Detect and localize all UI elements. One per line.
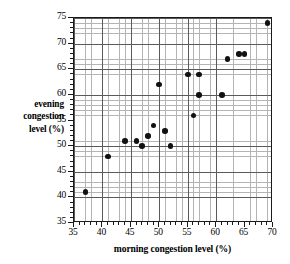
y-axis-tick xyxy=(68,43,73,44)
data-point xyxy=(191,113,197,119)
scatter-chart: eveningcongestionlevel (%) morning conge… xyxy=(0,0,290,264)
y-axis-minor-tick xyxy=(70,140,73,141)
y-axis-minor-tick xyxy=(70,32,73,33)
data-point xyxy=(156,82,162,88)
y-axis-minor-tick xyxy=(70,125,73,126)
x-axis-tick-label: 60 xyxy=(202,228,228,238)
y-axis-minor-tick xyxy=(70,104,73,105)
x-axis-minor-tick xyxy=(238,222,239,225)
x-axis-minor-tick xyxy=(249,222,250,225)
data-point xyxy=(122,138,128,144)
data-point xyxy=(196,72,202,78)
y-axis-tick-label: 65 xyxy=(42,63,66,73)
y-axis-tick-label: 70 xyxy=(42,38,66,48)
y-axis-tick-label: 75 xyxy=(42,12,66,22)
y-axis-minor-tick xyxy=(70,217,73,218)
y-axis-minor-tick xyxy=(70,191,73,192)
y-axis-title-line: evening xyxy=(2,98,64,110)
x-axis-title: morning congestion level (%) xyxy=(73,243,272,254)
data-point xyxy=(145,133,151,139)
data-point xyxy=(265,20,271,26)
y-axis-tick xyxy=(68,68,73,69)
x-axis-tick-label: 35 xyxy=(60,228,86,238)
x-axis-tick-label: 45 xyxy=(117,228,143,238)
y-axis-minor-tick xyxy=(70,114,73,115)
y-axis-minor-tick xyxy=(70,150,73,151)
y-axis-title-line: level (%) xyxy=(2,123,64,135)
x-axis-minor-tick xyxy=(107,222,108,225)
x-axis-minor-tick xyxy=(227,222,228,225)
y-axis-tick-label: 35 xyxy=(42,217,66,227)
y-axis-minor-tick xyxy=(70,58,73,59)
y-axis-minor-tick xyxy=(70,202,73,203)
x-axis-minor-tick xyxy=(204,222,205,225)
data-point xyxy=(134,138,140,144)
data-point xyxy=(162,128,168,134)
data-point xyxy=(242,51,248,57)
x-axis-minor-tick xyxy=(209,222,210,225)
x-axis-minor-tick xyxy=(124,222,125,225)
x-axis-minor-tick xyxy=(181,222,182,225)
x-axis-tick-label: 65 xyxy=(231,228,257,238)
x-axis-minor-tick xyxy=(113,222,114,225)
data-point xyxy=(225,56,231,62)
x-axis-minor-tick xyxy=(170,222,171,225)
y-axis-tick-label: 50 xyxy=(42,140,66,150)
x-axis-tick-label: 50 xyxy=(145,228,171,238)
y-axis-minor-tick xyxy=(70,135,73,136)
y-axis-tick xyxy=(68,120,73,121)
y-axis-minor-tick xyxy=(70,166,73,167)
x-axis-minor-tick xyxy=(198,222,199,225)
y-axis-minor-tick xyxy=(70,53,73,54)
x-axis-minor-tick xyxy=(175,222,176,225)
y-axis-minor-tick xyxy=(70,84,73,85)
y-axis-tick-label: 40 xyxy=(42,191,66,201)
y-axis-tick-label: 55 xyxy=(42,115,66,125)
y-axis-minor-tick xyxy=(70,63,73,64)
data-point xyxy=(168,143,174,149)
x-axis-minor-tick xyxy=(118,222,119,225)
data-point xyxy=(105,154,111,160)
x-axis-tick-label: 55 xyxy=(174,228,200,238)
y-axis-minor-tick xyxy=(70,130,73,131)
x-axis-minor-tick xyxy=(90,222,91,225)
y-axis-tick xyxy=(68,17,73,18)
x-axis-minor-tick xyxy=(261,222,262,225)
plot-area xyxy=(73,17,272,222)
data-point xyxy=(196,92,202,98)
y-axis-minor-tick xyxy=(70,161,73,162)
data-point xyxy=(83,189,89,195)
y-axis-tick xyxy=(68,196,73,197)
y-axis-minor-tick xyxy=(70,155,73,156)
y-axis-tick-label: 60 xyxy=(42,89,66,99)
y-axis-minor-tick xyxy=(70,27,73,28)
y-axis-minor-tick xyxy=(70,99,73,100)
y-axis-minor-tick xyxy=(70,207,73,208)
y-axis-minor-tick xyxy=(70,89,73,90)
x-axis-minor-tick xyxy=(164,222,165,225)
x-axis-tick-label: 40 xyxy=(88,228,114,238)
x-axis-minor-tick xyxy=(84,222,85,225)
x-axis-minor-tick xyxy=(153,222,154,225)
x-axis-minor-tick xyxy=(192,222,193,225)
y-axis-minor-tick xyxy=(70,176,73,177)
x-axis-minor-tick xyxy=(221,222,222,225)
x-axis-minor-tick xyxy=(79,222,80,225)
x-axis-minor-tick xyxy=(136,222,137,225)
y-axis-minor-tick xyxy=(70,181,73,182)
y-axis-minor-tick xyxy=(70,212,73,213)
y-axis-minor-tick xyxy=(70,22,73,23)
x-axis-minor-tick xyxy=(232,222,233,225)
x-axis-tick-label: 70 xyxy=(259,228,285,238)
x-axis-minor-tick xyxy=(266,222,267,225)
y-axis-minor-tick xyxy=(70,109,73,110)
y-axis-minor-tick xyxy=(70,73,73,74)
data-point xyxy=(236,51,242,57)
y-axis-minor-tick xyxy=(70,48,73,49)
data-point xyxy=(139,143,145,149)
data-point xyxy=(185,72,191,78)
y-axis-minor-tick xyxy=(70,79,73,80)
data-point xyxy=(219,92,225,98)
y-axis-tick xyxy=(68,94,73,95)
x-axis-minor-tick xyxy=(141,222,142,225)
